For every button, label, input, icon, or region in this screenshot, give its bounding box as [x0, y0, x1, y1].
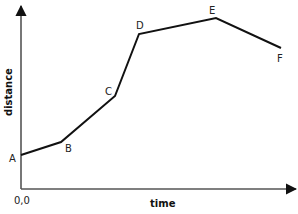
distance-line — [21, 18, 281, 155]
point-label-d: D — [136, 20, 144, 31]
point-label-f: F — [277, 53, 283, 64]
distance-time-graph: A B C D E F 0,0 time distance — [0, 0, 298, 214]
point-label-e: E — [209, 5, 215, 16]
x-axis-label: time — [150, 198, 176, 209]
origin-label: 0,0 — [14, 195, 30, 206]
point-label-b: B — [65, 143, 72, 154]
y-axis-label: distance — [3, 68, 14, 116]
point-label-c: C — [105, 86, 112, 97]
point-label-a: A — [9, 153, 16, 164]
